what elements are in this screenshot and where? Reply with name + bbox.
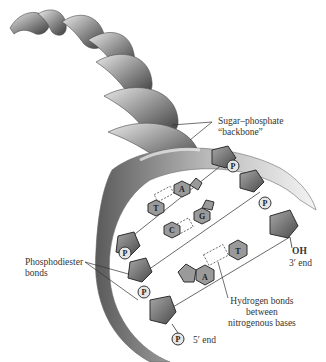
phosphate-label: P [231,162,236,171]
phosphate-label: P [263,199,268,208]
base-letter: T [235,247,241,256]
oh-label: OH [292,246,307,257]
base-letter: C [169,226,175,235]
phosphate-label: P [123,249,128,258]
hydrogen-label-line2: between [228,307,296,318]
double-helix [10,10,200,168]
backbone-label: Sugar–phosphate “backbone” [218,116,283,138]
five-prime-label: 5′ end [193,335,216,346]
phosphate-label: P [176,335,181,344]
phosphate-label: P [142,288,147,297]
backbone-label-line2: “backbone” [218,127,283,138]
hydrogen-label-line3: nitrogenous bases [228,318,296,329]
backbone-label-line1: Sugar–phosphate [218,116,283,127]
base-letter: T [153,204,159,213]
dna-structure-diagram: P P P P P T C A A G T Sugar–phosphate “b… [0,0,326,362]
hydrogen-label-line1: Hydrogen bonds [228,296,296,307]
base-letter: A [179,185,185,194]
phosphodiester-label: Phosphodiester bonds [25,257,83,279]
base-letter: G [199,212,205,221]
base-letter: A [202,273,208,282]
phosphodiester-label-line2: bonds [25,268,83,279]
hydrogen-bonds-label: Hydrogen bonds between nitrogenous bases [228,296,296,329]
phosphodiester-label-line1: Phosphodiester [25,257,83,268]
three-prime-label: 3′ end [289,258,312,269]
